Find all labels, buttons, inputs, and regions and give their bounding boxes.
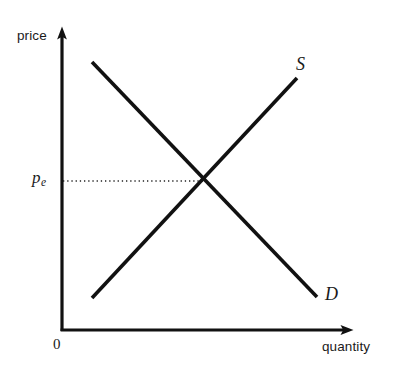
equilibrium-price-symbol: p (32, 168, 41, 187)
supply-demand-figure: price quantity 0 pe S D (0, 0, 400, 376)
x-axis (61, 325, 354, 335)
x-axis-label: quantity (322, 340, 370, 354)
plot-canvas (0, 0, 400, 376)
y-axis-label: price (17, 29, 47, 43)
equilibrium-price-subscript: e (41, 176, 46, 188)
supply-curve (92, 78, 297, 298)
origin-label: 0 (53, 337, 61, 352)
y-axis (57, 27, 67, 332)
demand-curve-label: D (325, 285, 338, 303)
equilibrium-price-label: pe (32, 169, 46, 186)
supply-curve-label: S (296, 55, 305, 73)
